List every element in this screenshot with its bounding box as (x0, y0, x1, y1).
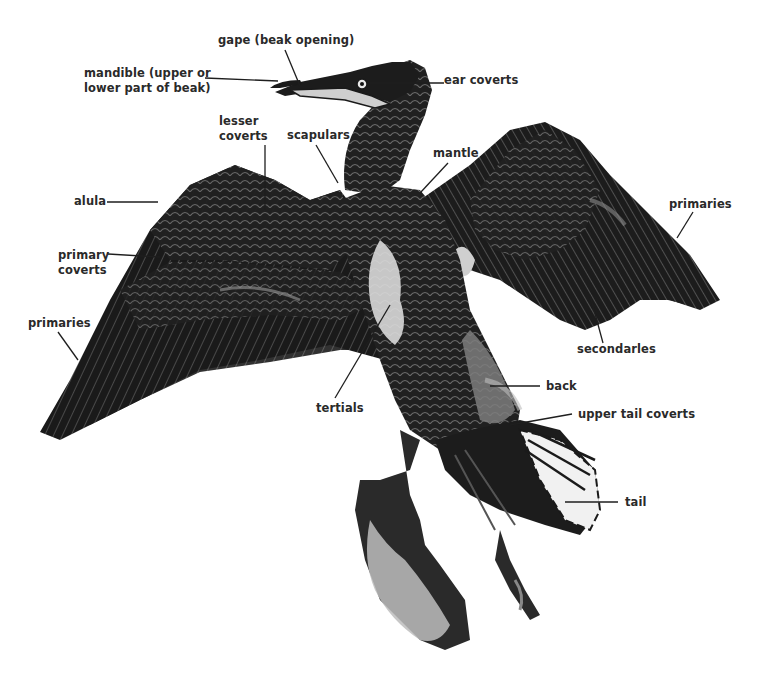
label-tertials: tertials (316, 401, 364, 416)
leader-tertials (335, 305, 390, 398)
label-primary-coverts-line1: primary (58, 248, 109, 263)
label-mandible-line2: lower part of beak) (84, 81, 211, 96)
leader-upper-tail-coverts (510, 414, 572, 425)
label-primaries-left: primaries (28, 316, 91, 331)
label-secondaries: secondarles (577, 342, 656, 357)
leader-scapulars (316, 145, 338, 183)
leader-primaries-left (58, 332, 78, 360)
label-back: back (546, 379, 577, 394)
label-ear-coverts: ear coverts (444, 73, 518, 88)
label-mandible: mandible (upper or lower part of beak) (84, 66, 211, 96)
label-gape: gape (beak opening) (218, 33, 354, 48)
label-lesser-coverts-line2: coverts (219, 129, 268, 144)
label-primaries-right: primaries (669, 197, 732, 212)
label-mandible-line1: mandible (upper or (84, 66, 211, 81)
label-alula: alula (74, 194, 106, 209)
leader-primaries-right (677, 212, 693, 238)
label-upper-tail-coverts: upper tail coverts (578, 407, 695, 422)
label-primary-coverts-line2: coverts (58, 263, 109, 278)
label-mantle: mantle (433, 146, 479, 161)
label-lesser-coverts: lesser coverts (219, 114, 268, 144)
leader-primary-coverts (108, 254, 160, 257)
leader-secondaries (590, 295, 603, 343)
leader-mandible (205, 78, 278, 81)
label-scapulars: scapulars (287, 128, 350, 143)
cormorant-diagram: gape (beak opening) mandible (upper or l… (0, 0, 768, 697)
leader-gape (285, 50, 300, 86)
label-tail: tail (625, 495, 647, 510)
leader-mantle (420, 163, 448, 193)
label-primary-coverts: primary coverts (58, 248, 109, 278)
label-lesser-coverts-line1: lesser (219, 114, 268, 129)
